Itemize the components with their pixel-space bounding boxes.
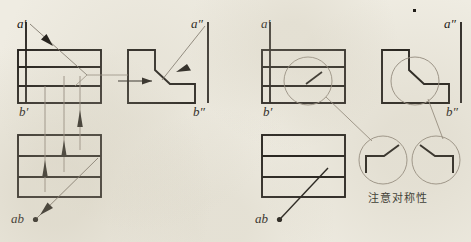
- symmetry-note: 注意对称性: [368, 189, 428, 205]
- ab-point-marker: [33, 217, 38, 222]
- side-view-outline: [128, 50, 195, 103]
- callout-circle-front: [284, 57, 332, 105]
- projection-arrow-1: [42, 160, 48, 177]
- label-a-prime-left: a′: [17, 17, 26, 30]
- projection-arrow-2: [61, 140, 67, 157]
- label-b-prime-left: b′: [19, 105, 28, 118]
- top-view-outline-right: [262, 135, 345, 197]
- a-double-prime-leader-arrowhead: [176, 64, 191, 72]
- projection-lines-group: [42, 76, 83, 192]
- figure-root: a′ a″ b′ b″ ab a′ a″ b′ b″ ab 注意对称性: [0, 0, 471, 242]
- label-b-prime-right: b′: [263, 105, 272, 118]
- front-view-chamfer-thin: [75, 75, 101, 86]
- technical-drawing-canvas: [0, 0, 471, 242]
- a-double-prime-leader-line: [162, 26, 205, 80]
- front-view-chamfer-mark-right: [306, 72, 322, 84]
- label-b-double-prime-left: b″: [193, 105, 205, 118]
- callout-circle-side: [391, 57, 439, 105]
- projection-arrow-3: [77, 110, 83, 127]
- label-a-prime-right: a′: [261, 17, 270, 30]
- front-view-outline-right: [262, 50, 345, 103]
- top-view-outline: [18, 135, 101, 197]
- label-b-double-prime-right: b″: [446, 105, 458, 118]
- ink-speck: [413, 9, 416, 12]
- label-ab-left: ab: [11, 212, 24, 225]
- ab-leader-line-right: [281, 168, 328, 218]
- chamfer-leader-arrowhead: [142, 78, 152, 85]
- ab-point-marker-right: [277, 217, 282, 222]
- label-a-double-prime-left: a″: [191, 17, 203, 30]
- detail-connector-right: [428, 99, 443, 139]
- detail-shape-right: [420, 145, 453, 173]
- left-panel-group: [18, 22, 208, 222]
- right-panel-group: [262, 9, 461, 222]
- label-a-double-prime-right: a″: [444, 17, 456, 30]
- front-view-outline: [18, 50, 101, 103]
- label-ab-right: ab: [255, 212, 268, 225]
- detail-shape-left: [366, 145, 399, 173]
